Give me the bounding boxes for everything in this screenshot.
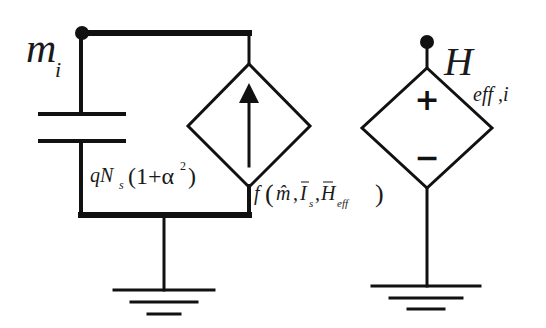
svg-text:qN: qN (90, 164, 115, 187)
svg-text:H: H (320, 182, 337, 204)
svg-text:(: ( (265, 179, 274, 208)
svg-text:m̂: m̂ (276, 182, 290, 204)
svg-text:s: s (309, 197, 313, 209)
node-dot-m (75, 26, 89, 40)
svg-text:s: s (119, 178, 124, 192)
svg-text:eff: eff (337, 197, 350, 209)
node-label-m: m (26, 25, 56, 71)
svg-text:,: , (293, 182, 298, 204)
node-label-h: H (443, 39, 475, 84)
svg-text:,: , (315, 182, 320, 204)
minus-sign: − (414, 140, 439, 175)
svg-text:(1+α: (1+α (128, 163, 175, 189)
svg-text:2: 2 (180, 159, 186, 173)
plus-sign: + (414, 82, 439, 117)
circuit-diagram: + − m i H eff ,i qN s (1+α 2 ) f ( m̂ , … (0, 0, 546, 328)
svg-text:): ) (188, 163, 196, 189)
current-arrow-head-icon (239, 83, 259, 103)
node-label-h-sub: eff ,i (473, 83, 509, 106)
node-dot-h (420, 35, 434, 49)
capacitor-label: qN s (1+α 2 ) (90, 159, 196, 192)
svg-text:): ) (375, 179, 384, 208)
node-label-m-sub: i (55, 57, 61, 82)
svg-text:I: I (299, 182, 308, 204)
current-source-label: f ( m̂ , I s , H eff ) (254, 179, 384, 209)
svg-text:f: f (254, 182, 262, 205)
